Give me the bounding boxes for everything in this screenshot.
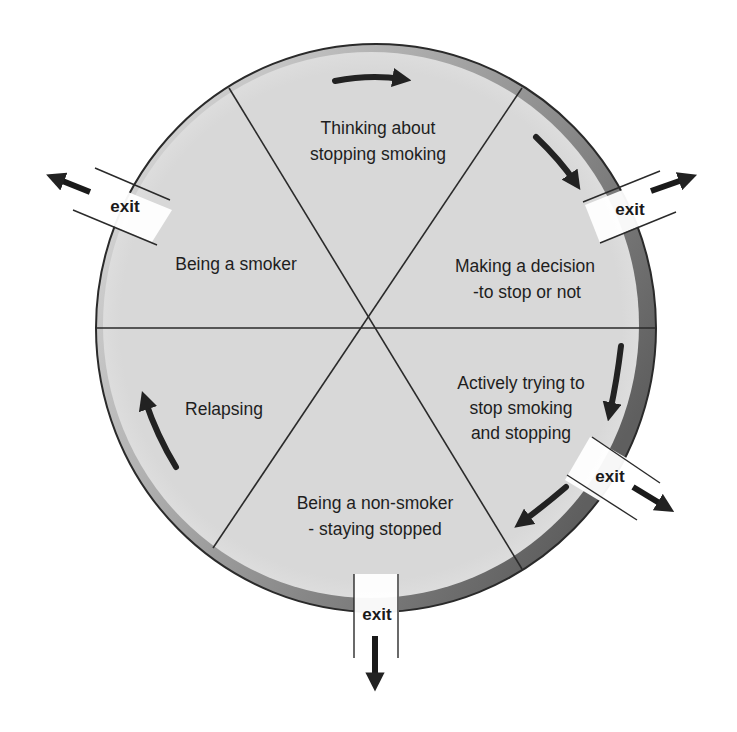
stage-deciding-line2: -to stop or not [473, 282, 581, 302]
stage-trying-line2: stop smoking [469, 398, 572, 418]
stage-thinking-line1: Thinking about [321, 118, 436, 138]
exit-label-smoker: exit [110, 197, 140, 216]
exit-label-trying: exit [595, 467, 625, 486]
stage-non-smoker-line1: Being a non-smoker [297, 493, 454, 513]
stage-non-smoker-line2: - staying stopped [308, 519, 441, 539]
stage-relapsing: Relapsing [185, 399, 263, 419]
smoking-cycle-diagram: Thinking about stopping smoking Making a… [0, 0, 737, 732]
stage-smoker: Being a smoker [175, 254, 297, 274]
stage-deciding-line1: Making a decision [455, 256, 595, 276]
stage-trying-line1: Actively trying to [457, 373, 584, 393]
exit-label-non-smoker: exit [362, 605, 392, 624]
stage-trying-line3: and stopping [471, 423, 571, 443]
stage-thinking-line2: stopping smoking [310, 144, 446, 164]
exit-label-deciding: exit [615, 200, 645, 219]
